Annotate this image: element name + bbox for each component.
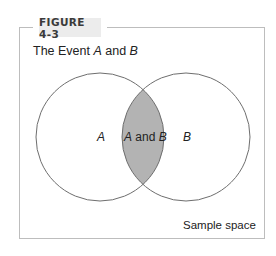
set-b-label: B — [183, 130, 191, 144]
sample-space-label: Sample space — [183, 219, 256, 231]
intersection-label-b: B — [159, 130, 167, 144]
intersection-label: A and B — [124, 130, 167, 144]
venn-diagram — [0, 0, 276, 256]
intersection-label-and: and — [132, 130, 159, 144]
set-a-label: A — [97, 130, 105, 144]
intersection-label-a: A — [124, 130, 132, 144]
